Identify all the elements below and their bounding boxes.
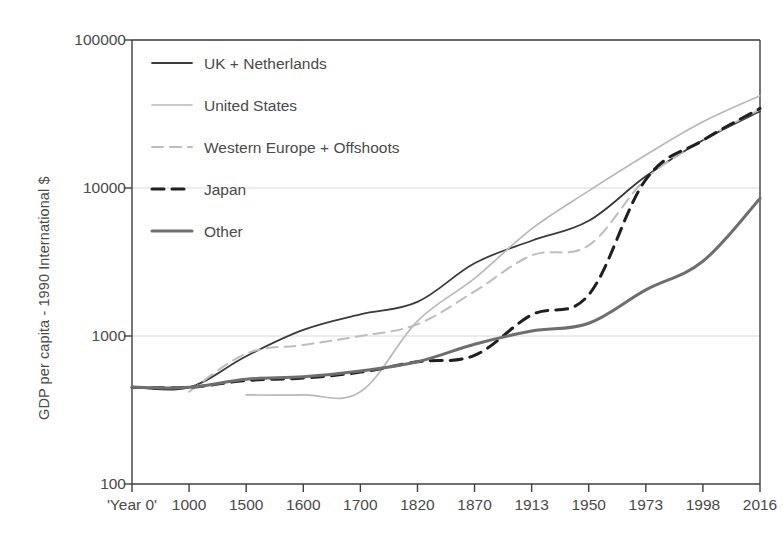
legend-label: Other [204,223,243,240]
legend: UK + NetherlandsUnited StatesWestern Eur… [152,55,400,240]
legend-label: United States [204,97,297,114]
legend-label: Japan [204,181,246,198]
gdp-per-capita-line-chart: GDP per capita - 1990 International $ 10… [0,0,783,548]
legend-label: Western Europe + Offshoots [204,139,400,156]
legend-label: UK + Netherlands [204,55,327,72]
plot-area: UK + NetherlandsUnited StatesWestern Eur… [0,0,783,548]
